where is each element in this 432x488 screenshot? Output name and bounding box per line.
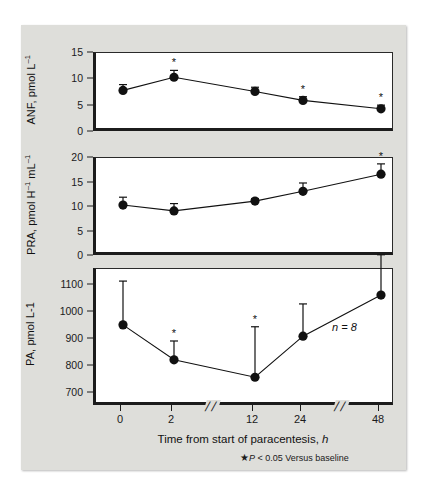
y-axis-title-pra: PRA, pmol H–1 mL–1 — [23, 135, 37, 275]
y-tick-label: 1000 — [43, 305, 83, 317]
y-tick-label: 20 — [43, 151, 83, 163]
x-axis-title: Time from start of paracentesis, h — [93, 433, 393, 445]
plot-panel-pra: * — [93, 157, 393, 255]
plot-panel-pa: ** — [93, 268, 393, 405]
significance-asterisk: * — [379, 151, 383, 162]
y-tick-mark — [87, 284, 93, 285]
significance-asterisk: * — [301, 84, 305, 95]
error-bar — [251, 327, 259, 378]
plot-area-pa: ** — [96, 269, 392, 402]
data-point — [118, 86, 127, 95]
y-tick-mark — [87, 364, 93, 365]
y-tick-label: 15 — [43, 176, 83, 188]
y-tick-label: 800 — [43, 359, 83, 371]
x-tick-mark — [171, 405, 172, 411]
data-point — [118, 200, 127, 209]
y-tick-label: 900 — [43, 332, 83, 344]
x-tick-label: 24 — [294, 413, 306, 425]
y-tick-label: 1100 — [43, 278, 83, 290]
y-tick-mark — [87, 230, 93, 231]
data-point — [298, 187, 307, 196]
data-point — [118, 320, 127, 329]
y-tick-label: 15 — [43, 46, 83, 58]
x-tick-mark — [252, 405, 253, 411]
y-tick-mark — [87, 391, 93, 392]
significance-asterisk: * — [172, 57, 176, 68]
data-point — [376, 170, 385, 179]
plot-area-pra: * — [96, 158, 392, 252]
y-tick-label: 0 — [43, 125, 83, 137]
data-point — [376, 290, 385, 299]
x-tick-label: 0 — [117, 413, 123, 425]
y-tick-label: 0 — [43, 249, 83, 261]
data-point — [250, 373, 259, 382]
x-tick-mark — [378, 405, 379, 411]
y-tick-mark — [87, 78, 93, 79]
data-point — [169, 206, 178, 215]
y-axis-title-pa: PA, pmol L-1 — [24, 264, 36, 404]
y-tick-mark — [87, 206, 93, 207]
footnote-text: < 0.05 Versus baseline — [258, 453, 349, 463]
x-tick-mark — [120, 405, 121, 411]
data-point — [169, 73, 178, 82]
series-anf — [96, 53, 396, 132]
x-tick-label: 48 — [372, 413, 384, 425]
significance-asterisk: * — [253, 314, 257, 325]
x-tick-label: 2 — [168, 413, 174, 425]
sample-size-annotation: n = 8 — [332, 321, 357, 333]
y-tick-mark — [87, 255, 93, 256]
series-line — [123, 295, 381, 377]
y-tick-mark — [87, 310, 93, 311]
significance-asterisk: * — [379, 92, 383, 103]
significance-footnote: ★P < 0.05 Versus baseline — [240, 452, 349, 463]
y-tick-mark — [87, 181, 93, 182]
x-axis-title-unit: h — [322, 433, 328, 445]
plot-area-anf: *** — [96, 53, 392, 128]
footnote-p-symbol: P — [249, 453, 255, 463]
y-tick-mark — [87, 52, 93, 53]
series-pra — [96, 158, 396, 256]
y-tick-mark — [87, 104, 93, 105]
y-tick-label: 10 — [43, 200, 83, 212]
data-point — [169, 355, 178, 364]
y-tick-mark — [87, 131, 93, 132]
data-point — [298, 332, 307, 341]
y-tick-mark — [87, 157, 93, 158]
star-icon: ★ — [240, 452, 249, 463]
error-bar — [299, 304, 307, 336]
series-line — [123, 174, 381, 211]
data-point — [250, 87, 259, 96]
y-tick-label: 10 — [43, 72, 83, 84]
x-tick-mark — [300, 405, 301, 411]
plot-panel-anf: *** — [93, 52, 393, 131]
y-tick-label: 5 — [43, 225, 83, 237]
data-point — [250, 197, 259, 206]
data-point — [376, 104, 385, 113]
x-tick-label: 12 — [246, 413, 258, 425]
error-bar — [119, 281, 127, 325]
y-tick-mark — [87, 337, 93, 338]
x-axis-title-text: Time from start of paracentesis, — [158, 433, 319, 445]
series-pa — [96, 269, 396, 406]
y-tick-label: 700 — [43, 386, 83, 398]
significance-asterisk: * — [172, 328, 176, 339]
data-point — [298, 96, 307, 105]
y-tick-label: 5 — [43, 99, 83, 111]
